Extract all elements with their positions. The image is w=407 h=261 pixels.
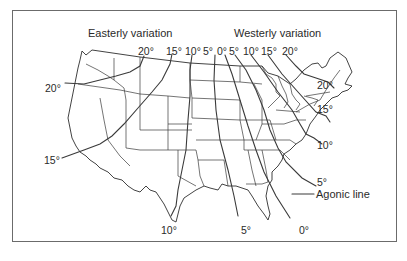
label-right-w5: 5° [317, 177, 327, 188]
heading-easterly-variation: Easterly variation [88, 28, 172, 39]
label-left-e15: 15° [44, 155, 60, 166]
label-right-w10: 10° [317, 140, 333, 151]
great-lakes [262, 66, 318, 110]
label-top-e15: 15° [166, 46, 182, 57]
label-top-w10: 10° [243, 46, 259, 57]
label-bottom-agonic: 0° [299, 225, 309, 236]
isogonic-map [0, 0, 407, 261]
label-bottom-e5: 5° [241, 225, 251, 236]
isogonic-line-e20 [65, 56, 144, 84]
label-bottom-e10: 10° [161, 225, 177, 236]
heading-westerly-variation: Westerly variation [234, 28, 321, 39]
agonic-line-callout: Agonic line [316, 189, 370, 200]
label-top-agonic: 0° [217, 46, 227, 57]
state-boundaries [78, 57, 340, 186]
label-right-w15: 15° [317, 104, 333, 115]
isogonic-line-e15 [62, 54, 172, 158]
label-top-e5: 5° [203, 46, 213, 57]
label-top-w5: 5° [229, 46, 239, 57]
isogonic-line-w5 [235, 55, 316, 186]
isogonic-lines [62, 54, 334, 218]
label-top-w15: 15° [261, 46, 277, 57]
label-top-e20: 20° [138, 46, 154, 57]
label-top-w20: 20° [282, 46, 298, 57]
isogonic-line-e5 [214, 55, 238, 216]
isogonic-line-e10 [171, 55, 192, 216]
label-top-e10: 10° [185, 46, 201, 57]
label-right-w20: 20° [317, 80, 333, 91]
label-left-e20: 20° [45, 83, 61, 94]
